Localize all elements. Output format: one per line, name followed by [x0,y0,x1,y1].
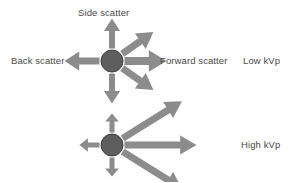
label-high-kvp: High kVp [241,140,280,150]
label-side-scatter: Side scatter [78,8,129,18]
high-kvp-scatter-right-arrow [125,136,197,155]
scatter-radiation-diagram: Side scatter Back scatter Forward scatte… [0,0,298,182]
high-kvp-scatter [80,101,197,182]
low-kvp-scatter-up-arrow [104,19,120,49]
low-kvp-scatter-upper-right-arrow [120,32,153,57]
high-kvp-scatter-upper-right-arrow [121,101,182,141]
diagram-canvas [0,0,298,182]
high-kvp-scatter-source-circle [101,134,123,156]
high-kvp-scatter-left-arrow [80,138,100,152]
arrow-layer [65,19,197,183]
low-kvp-scatter-lower-right-arrow [120,65,153,90]
high-kvp-scatter-lower-right-arrow [121,149,182,182]
high-kvp-scatter-down-arrow [105,158,119,177]
label-back-scatter: Back scatter [11,56,64,66]
low-kvp-scatter-down-arrow [104,74,120,104]
low-kvp-scatter-left-arrow [65,52,100,71]
label-low-kvp: Low kVp [243,56,280,66]
label-forward-scatter: Forward scatter [160,56,228,66]
low-kvp-scatter-source-circle [101,50,123,72]
high-kvp-scatter-up-arrow [105,114,119,133]
